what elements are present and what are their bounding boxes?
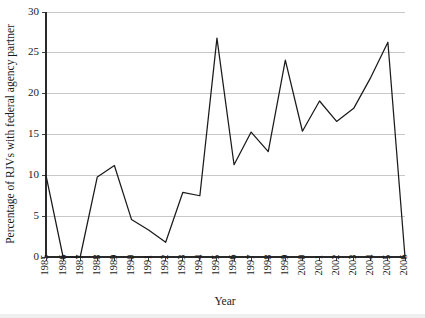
x-tick-label-1985: 1985 (39, 255, 50, 276)
y-tick-label-20: 20 (28, 86, 40, 98)
x-tick-label-2000: 2000 (296, 255, 307, 276)
x-tick-label-1998: 1998 (262, 255, 273, 276)
y-tick-label-10: 10 (28, 168, 40, 180)
x-tick-label-1995: 1995 (210, 255, 221, 276)
x-tick-label-2002: 2002 (330, 255, 341, 276)
chart-container: 051015202530 198519861987198819891990199… (0, 0, 425, 318)
line-chart: 051015202530 198519861987198819891990199… (0, 0, 425, 318)
x-tick-label-1986: 1986 (57, 255, 68, 276)
x-tick-label-1992: 1992 (159, 255, 170, 276)
y-tick-label-15: 15 (28, 127, 40, 139)
x-tick-label-2006: 2006 (398, 255, 409, 276)
x-tick-label-1991: 1991 (142, 255, 153, 276)
x-tick-label-1990: 1990 (125, 255, 136, 276)
x-tick-label-1989: 1989 (108, 255, 119, 276)
x-tick-label-1994: 1994 (193, 254, 204, 276)
x-tick-label-2004: 2004 (364, 254, 375, 276)
y-tick-label-5: 5 (34, 209, 40, 221)
y-axis-title: Percentage of RJVs with federal agency p… (4, 24, 17, 244)
x-tick-label-1996: 1996 (227, 255, 238, 276)
x-tick-label-2001: 2001 (313, 255, 324, 276)
bottom-edge-band (0, 314, 425, 318)
x-tick-label-1988: 1988 (91, 255, 102, 276)
x-axis-title: Year (214, 295, 235, 307)
x-tick-label-1999: 1999 (279, 255, 290, 276)
x-tick-label-1993: 1993 (176, 255, 187, 276)
y-tick-label-25: 25 (28, 45, 40, 57)
x-tick-label-2005: 2005 (381, 255, 392, 276)
y-tick-label-30: 30 (28, 5, 40, 17)
x-tick-label-1987: 1987 (74, 255, 85, 276)
x-tick-label-1997: 1997 (245, 255, 256, 276)
x-tick-label-2003: 2003 (347, 255, 358, 276)
